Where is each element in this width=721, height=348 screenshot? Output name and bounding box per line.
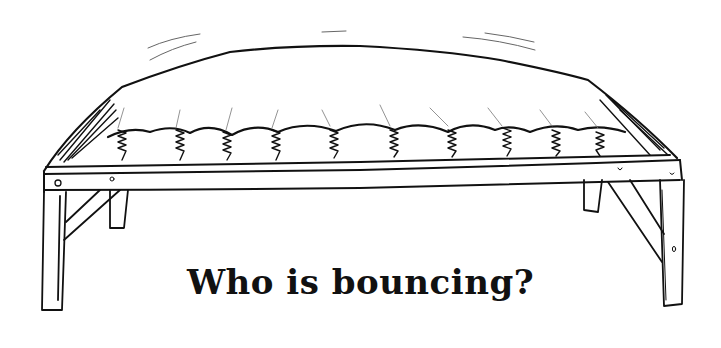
bench-rail — [44, 155, 682, 192]
mattress-outline — [44, 46, 677, 171]
caption-text: Who is bouncing? — [0, 262, 721, 302]
mattress-scallops — [108, 124, 625, 137]
